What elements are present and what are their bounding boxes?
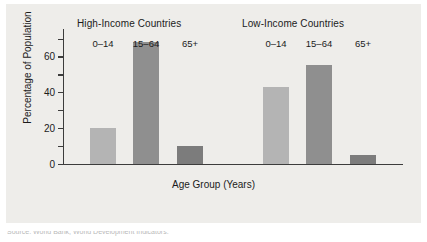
- bar: [263, 87, 289, 164]
- tick-mark: [58, 92, 63, 93]
- tick-mark: [58, 39, 63, 40]
- plot-area: 0204060 0–1415–6465+0–1415–6465+: [63, 29, 403, 165]
- y-axis-tick-label: 40: [44, 87, 55, 98]
- y-axis-tick-label: 60: [44, 51, 55, 62]
- x-axis-title: Age Group (Years): [6, 179, 421, 190]
- y-axis-line: [63, 29, 64, 165]
- tick-mark: [58, 56, 63, 57]
- x-axis-tick-label: 15–64: [133, 38, 159, 49]
- chart-figure: High-Income Countries Low-Income Countri…: [6, 4, 421, 223]
- bar: [90, 128, 116, 164]
- group-title-high-income: High-Income Countries: [77, 18, 181, 29]
- bar: [177, 146, 203, 164]
- tick-mark: [58, 164, 63, 165]
- y-axis-tick-label: 0: [49, 158, 55, 169]
- y-axis-title: Percentage of Population: [22, 0, 33, 148]
- bar: [306, 65, 332, 163]
- x-axis-tick-label: 0–14: [92, 38, 113, 49]
- x-axis-tick-label: 0–14: [265, 38, 286, 49]
- x-axis-tick-label: 65+: [355, 38, 371, 49]
- x-axis-tick-label: 15–64: [306, 38, 332, 49]
- tick-mark: [58, 110, 63, 111]
- tick-mark: [58, 146, 63, 147]
- y-axis-tick-label: 20: [44, 122, 55, 133]
- tick-mark: [58, 74, 63, 75]
- figure-caption-clipped: Source: World Bank, World Development In…: [7, 231, 417, 242]
- tick-mark: [58, 128, 63, 129]
- group-title-low-income: Low-Income Countries: [242, 18, 344, 29]
- screenshot-root: High-Income Countries Low-Income Countri…: [0, 0, 427, 242]
- x-axis-tick-label: 65+: [182, 38, 198, 49]
- caption-text: Source: World Bank, World Development In…: [7, 231, 417, 236]
- bar: [133, 42, 159, 163]
- x-axis-line: [63, 164, 403, 165]
- bar: [350, 155, 376, 164]
